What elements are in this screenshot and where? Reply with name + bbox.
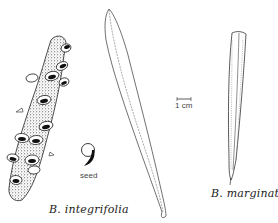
scale-bar-label: 1 cm	[175, 101, 192, 110]
species-label-marginata: B. marginata	[211, 187, 278, 200]
integrifolia-leaf-illustration	[105, 9, 166, 218]
seed-illustration	[82, 144, 95, 167]
marginata-leaf-illustration	[228, 32, 246, 185]
seed-label: seed	[80, 171, 97, 180]
cone-illustration	[6, 36, 72, 201]
species-label-integrifolia: B. integrifolia	[49, 203, 129, 216]
